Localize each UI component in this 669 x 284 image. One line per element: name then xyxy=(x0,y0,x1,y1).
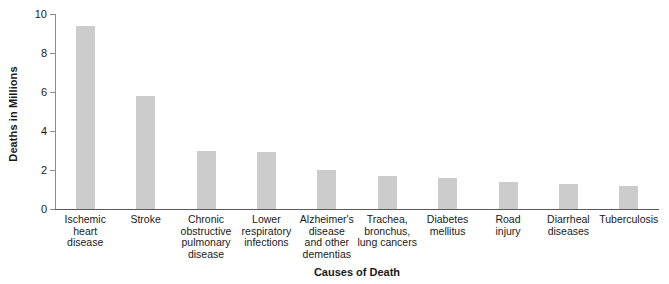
x-category-label: Alzheimer'sdiseaseand otherdementias xyxy=(294,214,360,260)
bar xyxy=(76,26,95,209)
bar xyxy=(559,184,578,209)
bar xyxy=(136,96,155,209)
bar xyxy=(438,178,457,209)
x-category-label: Stroke xyxy=(113,214,179,226)
x-axis-title: Causes of Death xyxy=(55,266,659,278)
x-category-label: Roadinjury xyxy=(475,214,541,237)
y-tick-label: 8 xyxy=(41,47,47,59)
bar xyxy=(378,176,397,209)
x-category-label-line: infections xyxy=(233,237,299,249)
bar-series xyxy=(55,14,659,210)
x-category-label: Lowerrespiratoryinfections xyxy=(233,214,299,249)
x-category-label-line: Stroke xyxy=(113,214,179,226)
x-category-label-line: dementias xyxy=(294,249,360,261)
x-category-label: Diarrhealdiseases xyxy=(535,214,601,237)
plot-area: 0246810 xyxy=(55,14,659,210)
x-category-label-line: injury xyxy=(475,226,541,238)
y-tick-label: 0 xyxy=(41,203,47,215)
x-category-label-line: Tuberculosis xyxy=(596,214,662,226)
x-category-label-line: Diabetes xyxy=(415,214,481,226)
bar xyxy=(619,186,638,209)
x-category-label-line: diseases xyxy=(535,226,601,238)
x-category-label-line: Alzheimer's xyxy=(294,214,360,226)
y-tick-label: 6 xyxy=(41,86,47,98)
bar-chart-figure: Deaths in Millions 0246810 Ischemicheart… xyxy=(0,0,669,284)
x-category-label-line: Lower xyxy=(233,214,299,226)
x-category-label-line: mellitus xyxy=(415,226,481,238)
y-tick-label: 10 xyxy=(35,8,47,20)
x-category-label-line: Diarrheal xyxy=(535,214,601,226)
y-tick-label: 2 xyxy=(41,164,47,176)
x-category-label: Diabetesmellitus xyxy=(415,214,481,237)
x-axis-category-labels: IschemicheartdiseaseStrokeChronicobstruc… xyxy=(55,214,659,264)
x-category-label-line: disease xyxy=(173,249,239,261)
x-category-label-line: Road xyxy=(475,214,541,226)
y-axis-title: Deaths in Millions xyxy=(2,16,24,212)
bar xyxy=(197,151,216,210)
x-category-label: Ischemicheartdisease xyxy=(52,214,118,249)
x-category-label: Trachea,bronchus,lung cancers xyxy=(354,214,420,249)
x-category-label: Tuberculosis xyxy=(596,214,662,226)
bar xyxy=(317,170,336,209)
x-category-label: Chronicobstructivepulmonarydisease xyxy=(173,214,239,260)
y-tick-label: 4 xyxy=(41,125,47,137)
x-category-label-line: disease xyxy=(52,237,118,249)
bar xyxy=(257,152,276,209)
x-category-label-line: Trachea, xyxy=(354,214,420,226)
x-category-label-line: Chronic xyxy=(173,214,239,226)
bar xyxy=(499,182,518,209)
x-category-label-line: Ischemic xyxy=(52,214,118,226)
x-category-label-line: lung cancers xyxy=(354,237,420,249)
